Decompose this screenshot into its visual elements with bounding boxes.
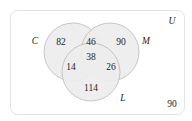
region-count-c-m-and-l: 38 xyxy=(86,52,96,62)
outside-universe-count: 90 xyxy=(167,99,177,109)
venn-diagram-figure: C M L U 82 46 90 14 38 26 114 90 xyxy=(0,0,192,121)
set-label-l: L xyxy=(119,93,125,103)
set-label-m: M xyxy=(141,36,151,46)
region-count-m-and-l: 26 xyxy=(106,62,116,72)
region-count-l-only: 114 xyxy=(84,83,98,93)
region-count-c-only: 82 xyxy=(56,37,66,47)
universe-label: U xyxy=(169,16,177,26)
region-count-c-and-l: 14 xyxy=(66,62,76,72)
set-label-c: C xyxy=(32,36,39,46)
region-count-m-only: 90 xyxy=(116,37,126,47)
region-count-c-and-m: 46 xyxy=(86,37,96,47)
venn-diagram-canvas: C M L U 82 46 90 14 38 26 114 90 xyxy=(0,0,192,121)
